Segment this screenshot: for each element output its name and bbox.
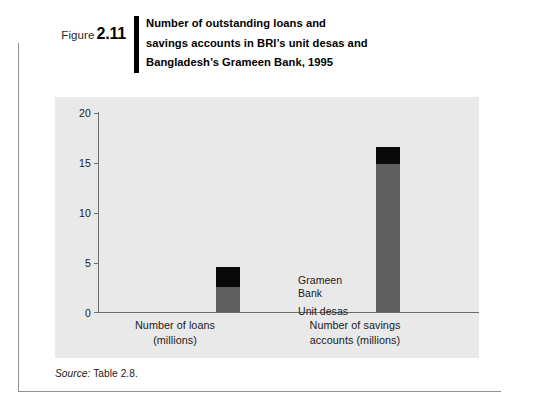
figure-header: Figure2.11 Number of outstanding loans a… [44,14,504,86]
page-title-line-2: savings accounts in BRI’s unit desas and [146,34,506,54]
category-label-loans-line-2: (millions) [85,333,265,348]
bar-segment-grameen-bank[interactable] [216,267,240,287]
category-label-loans-line-1: Number of loans [85,318,265,333]
y-tick-mark-0 [94,312,98,313]
bar-number-of-loans[interactable] [216,267,240,312]
legend-label-unit-desas: Unit desas [298,305,348,318]
category-label-savings-line-2: accounts (millions) [255,333,455,348]
bar-segment-unit-desas[interactable] [376,164,400,312]
source-note: Source: Table 2.8. [55,368,138,379]
y-tick-label-10: 10 [65,207,91,219]
source-text: Table 2.8. [90,368,137,379]
y-tick-mark-10 [94,213,98,214]
legend-item-grameen-bank: Grameen Bank [298,274,342,300]
source-divider-rule [19,391,481,392]
x-axis-category-labels: Number of loans (millions) Number of sav… [55,318,479,352]
figure-number-block: Figure2.11 [44,25,130,43]
y-tick-mark-5 [94,263,98,264]
bar-segment-grameen-bank[interactable] [376,147,400,164]
y-tick-label-5: 5 [65,257,91,269]
bar-number-of-savings-accounts[interactable] [376,147,400,312]
page-title-line-3: Bangladesh’s Grameen Bank, 1995 [146,53,506,73]
legend-label-grameen-line-2: Bank [298,287,342,300]
y-tick-label-20: 20 [65,107,91,119]
page-title-line-1: Number of outstanding loans and [146,14,506,34]
page-title: Number of outstanding loans and savings … [146,14,506,73]
y-tick-mark-20 [94,113,98,114]
figure-word-label: Figure [61,29,94,41]
x-axis-line [98,312,479,313]
y-axis-line [98,112,99,312]
figure-number: 2.11 [97,25,126,42]
category-label-number-of-savings-accounts: Number of savings accounts (millions) [255,318,455,348]
legend-label-grameen-line-1: Grameen [298,274,342,287]
source-label: Source: [55,368,90,379]
category-label-number-of-loans: Number of loans (millions) [85,318,265,348]
y-tick-label-15: 15 [65,157,91,169]
category-label-savings-line-1: Number of savings [255,318,455,333]
legend-item-unit-desas: Unit desas [298,305,348,318]
y-tick-mark-15 [94,163,98,164]
title-accent-rule [134,16,139,73]
bar-segment-unit-desas[interactable] [216,287,240,312]
chart-axes: Grameen Bank Unit desas [98,112,479,313]
